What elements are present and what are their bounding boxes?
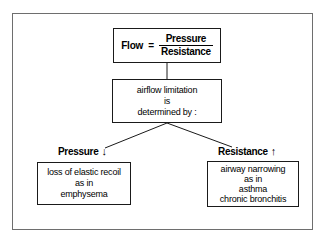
- left-line-1: loss of elastic recoil: [47, 167, 121, 178]
- branch-label-resistance-text: Resistance: [218, 147, 268, 157]
- middle-line-3: determined by :: [137, 107, 196, 118]
- formula-left-term: Flow: [121, 41, 143, 51]
- middle-line-1: airflow limitation: [137, 85, 197, 96]
- middle-line-2: is: [164, 96, 170, 107]
- right-line-3: asthma: [239, 184, 267, 194]
- branch-label-pressure-text: Pressure: [58, 147, 98, 157]
- fraction-denominator: Resistance: [159, 46, 213, 57]
- branch-label-pressure: Pressure ↓: [58, 146, 107, 157]
- equals-sign: =: [148, 41, 154, 51]
- formula-box: Flow = Pressure Resistance: [113, 28, 221, 63]
- up-arrow-icon: ↑: [271, 146, 276, 157]
- right-cause-box: airway narrowing as in asthma chronic br…: [207, 161, 299, 207]
- down-arrow-icon: ↓: [101, 146, 106, 157]
- left-cause-box: loss of elastic recoil as in emphysema: [37, 162, 131, 205]
- formula-expression: Flow = Pressure Resistance: [121, 34, 213, 57]
- left-line-2: as in: [75, 178, 93, 189]
- fraction-numerator: Pressure: [164, 34, 208, 45]
- right-line-1: airway narrowing: [221, 164, 286, 174]
- right-line-4: chronic bronchitis: [220, 194, 286, 204]
- diagram-canvas: Flow = Pressure Resistance airflow limit…: [0, 0, 328, 248]
- right-line-2: as in: [244, 174, 262, 184]
- left-line-3: emphysema: [60, 189, 107, 200]
- branch-label-resistance: Resistance ↑: [218, 146, 276, 157]
- fraction: Pressure Resistance: [159, 34, 213, 57]
- middle-box: airflow limitation is determined by :: [112, 79, 222, 123]
